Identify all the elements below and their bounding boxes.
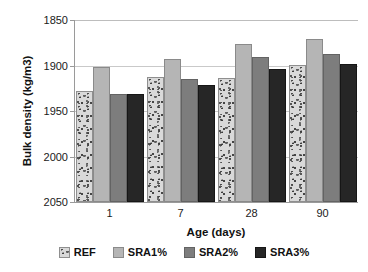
legend-item-sra3pct[interactable]: SRA3% (255, 246, 309, 258)
bar-sra2pct-7 (181, 79, 198, 202)
bar-sra3pct-1 (127, 94, 144, 202)
y-axis-title: Bulk density (kg/m3) (21, 26, 33, 196)
bar-sra1pct-1 (93, 67, 110, 202)
bar-sra3pct-90 (340, 64, 357, 203)
bar-chart: Bulk density (kg/m3) 2050200019501900185… (0, 0, 368, 272)
x-axis-ticks: 172890 (74, 207, 358, 219)
legend-label: SRA1% (128, 246, 167, 258)
chart-legend: REFSRA1%SRA2%SRA3% (0, 246, 368, 258)
bar-group-7 (146, 20, 217, 202)
legend-item-ref[interactable]: REF (59, 246, 96, 258)
legend-label: REF (74, 246, 96, 258)
bar-ref-1 (76, 91, 93, 202)
legend-swatch-icon (113, 247, 124, 258)
x-tick-label: 1 (74, 207, 145, 219)
bar-sra1pct-7 (164, 59, 181, 202)
legend-item-sra2pct[interactable]: SRA2% (184, 246, 238, 258)
bar-sra2pct-28 (252, 57, 269, 202)
legend-swatch-icon (255, 247, 266, 258)
plot-area: 20502000195019001850 (74, 20, 358, 203)
y-tick-label: 2050 (44, 196, 68, 208)
legend-swatch-icon (59, 247, 70, 258)
bar-group-1 (75, 20, 146, 202)
y-tick-label: 1900 (44, 60, 68, 72)
x-axis-title: Age (days) (74, 226, 358, 238)
x-tick-label: 28 (216, 207, 287, 219)
legend-label: SRA2% (199, 246, 238, 258)
legend-swatch-icon (184, 247, 195, 258)
bar-sra1pct-28 (235, 44, 252, 202)
bar-sra2pct-1 (110, 94, 127, 202)
bar-group-28 (217, 20, 288, 202)
bars-layer (75, 20, 358, 202)
x-tick-label: 7 (145, 207, 216, 219)
bar-ref-90 (289, 65, 306, 202)
bar-sra3pct-7 (198, 85, 215, 202)
bar-sra3pct-28 (269, 69, 286, 202)
bar-sra1pct-90 (306, 39, 323, 202)
bar-group-90 (287, 20, 358, 202)
x-tick-label: 90 (287, 207, 358, 219)
y-tick-label: 1950 (44, 105, 68, 117)
legend-item-sra1pct[interactable]: SRA1% (113, 246, 167, 258)
y-tick-mark (70, 202, 75, 203)
bar-sra2pct-90 (323, 54, 340, 202)
y-tick-label: 2000 (44, 151, 68, 163)
y-tick-label: 1850 (44, 14, 68, 26)
legend-label: SRA3% (270, 246, 309, 258)
bar-ref-28 (218, 78, 235, 202)
bar-ref-7 (147, 77, 164, 202)
